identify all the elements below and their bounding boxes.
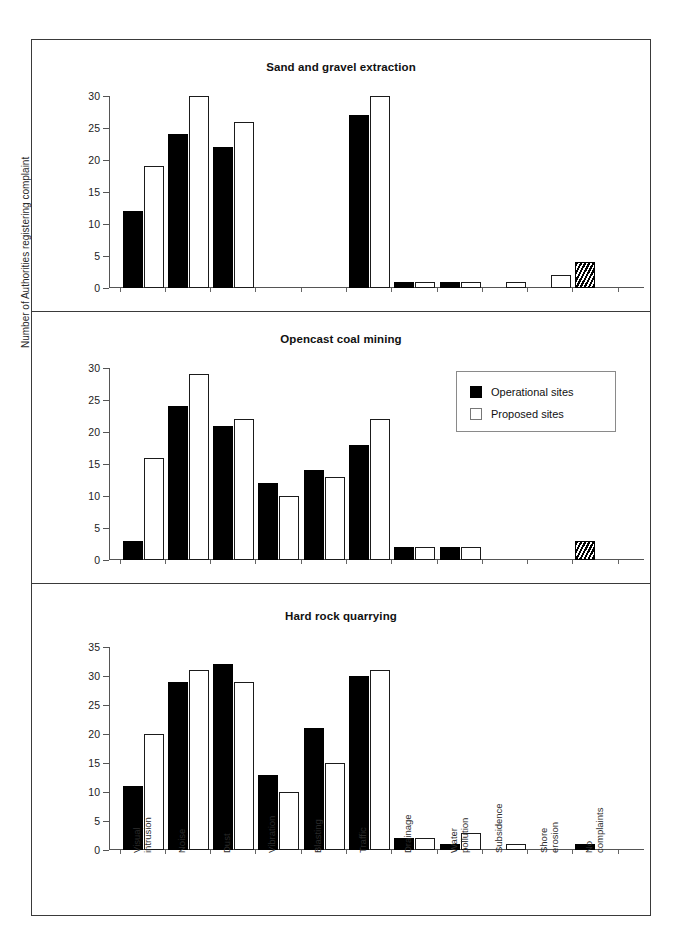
x-axis-label-line: erosion	[550, 822, 561, 853]
y-axis-line	[109, 368, 110, 560]
x-axis-label-traffic: Traffic	[358, 827, 369, 853]
y-axis-tick-label: 30	[88, 362, 100, 374]
bar-operational	[575, 541, 595, 560]
x-axis-label-line: Traffic	[358, 827, 369, 853]
x-axis-label-noise: Noise	[177, 829, 188, 853]
x-axis-tick	[165, 560, 166, 564]
chart-panel-sand-and-gravel: Sand and gravel extraction 051015202530	[32, 40, 650, 312]
bar-operational	[440, 547, 460, 560]
x-axis-tick	[437, 560, 438, 564]
x-axis-tick	[391, 288, 392, 292]
y-axis-tick	[103, 496, 109, 497]
bar-group	[213, 96, 254, 288]
plot-area: 051015202530	[109, 96, 632, 288]
plot-area: 05101520253035	[109, 647, 632, 850]
legend-label: Proposed sites	[491, 408, 564, 420]
x-axis-label-visual-intrusion: Visualintrusion	[132, 817, 153, 853]
bar-group	[304, 647, 345, 850]
x-axis-tick	[437, 288, 438, 292]
bar-proposed	[415, 282, 435, 288]
x-axis-tick	[482, 560, 483, 564]
x-axis-label-shore-erosion: Shoreerosion	[539, 822, 560, 853]
y-axis-tick	[103, 705, 109, 706]
bar-proposed	[279, 792, 299, 850]
bar-group	[394, 647, 435, 850]
bar-operational	[168, 682, 188, 850]
y-axis-tick-label: 5	[94, 522, 100, 534]
y-axis-line	[109, 647, 110, 850]
y-axis-caption: Number of Authorities registering compla…	[20, 148, 31, 348]
x-axis-label-line: Vibration	[267, 816, 278, 853]
bar-group	[530, 647, 571, 850]
legend-swatch-operational-icon	[470, 386, 482, 398]
y-axis-tick-label: 30	[88, 90, 100, 102]
legend-swatch-proposed-icon	[470, 408, 482, 420]
x-axis-tick	[210, 560, 211, 564]
bar-group	[485, 96, 526, 288]
y-axis-tick-label: 25	[88, 394, 100, 406]
bar-group	[258, 368, 299, 560]
y-axis-tick	[103, 821, 109, 822]
y-axis-tick	[103, 256, 109, 257]
bar-proposed	[189, 96, 209, 288]
x-axis-label-vibration: Vibration	[267, 816, 278, 853]
x-axis-tick	[346, 288, 347, 292]
bar-proposed	[234, 122, 254, 288]
x-axis-tick	[346, 560, 347, 564]
bar-operational	[123, 211, 143, 288]
y-axis-tick	[103, 96, 109, 97]
bar-operational	[394, 547, 414, 560]
x-axis-label-blasting: Blasting	[313, 819, 324, 853]
y-axis-tick-label: 25	[88, 122, 100, 134]
bar-operational	[349, 676, 369, 850]
chart-panel-hard-rock-quarrying: Hard rock quarrying 05101520253035 Visua…	[32, 584, 650, 917]
bar-group	[530, 96, 571, 288]
y-axis-tick	[103, 192, 109, 193]
x-axis-tick	[165, 288, 166, 292]
bar-group	[349, 96, 390, 288]
bar-operational	[123, 541, 143, 560]
bar-group	[213, 647, 254, 850]
x-axis-label-water-pollution: Waterpollution	[449, 818, 470, 853]
y-axis-tick-label: 0	[94, 554, 100, 566]
x-axis-label-line: Blasting	[313, 819, 324, 853]
bar-proposed	[234, 419, 254, 560]
y-axis-tick-label: 20	[88, 728, 100, 740]
y-axis-tick	[103, 368, 109, 369]
y-axis-line	[109, 96, 110, 288]
y-axis-tick-label: 0	[94, 844, 100, 856]
y-axis-tick-label: 10	[88, 490, 100, 502]
bar-proposed	[144, 166, 164, 288]
bar-proposed	[415, 838, 435, 850]
x-axis-label-line: Subsidence	[494, 803, 505, 853]
bar-group	[123, 96, 164, 288]
panel-title: Hard rock quarrying	[32, 610, 650, 622]
x-axis-label-line: complaints	[595, 808, 606, 853]
bar-operational	[394, 282, 414, 288]
x-axis-tick	[482, 288, 483, 292]
bar-operational	[349, 445, 369, 560]
x-axis-label-drainage: Drainage	[403, 814, 414, 853]
x-axis-label-line: Drainage	[403, 814, 414, 853]
bar-proposed	[325, 763, 345, 850]
figure-frame: Sand and gravel extraction 051015202530 …	[31, 39, 651, 916]
x-axis-tick	[301, 560, 302, 564]
y-axis-tick	[103, 128, 109, 129]
bar-proposed	[551, 275, 571, 288]
y-axis-tick-label: 20	[88, 154, 100, 166]
bar-proposed	[370, 96, 390, 288]
x-axis-tick	[255, 560, 256, 564]
y-axis-tick-label: 5	[94, 815, 100, 827]
bar-group	[258, 647, 299, 850]
y-axis-tick	[103, 763, 109, 764]
y-axis-tick-label: 25	[88, 699, 100, 711]
x-axis-tick	[255, 288, 256, 292]
bar-group	[394, 368, 435, 560]
x-axis-tick	[618, 288, 619, 292]
x-axis-tick	[120, 288, 121, 292]
chart-panel-opencast-coal: Opencast coal mining Number of Authoriti…	[32, 312, 650, 584]
y-axis-tick	[103, 160, 109, 161]
y-axis-tick-label: 15	[88, 757, 100, 769]
x-axis-label-line: pollution	[459, 818, 470, 853]
x-axis-label-line: Dust	[222, 833, 233, 853]
